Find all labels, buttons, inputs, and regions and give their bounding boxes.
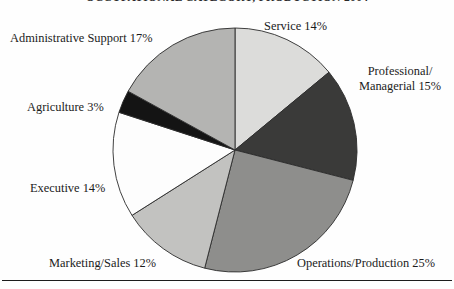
pie-label-marketing-sales: Marketing/Sales 12% [49, 256, 156, 271]
pie-label-operations-production: Operations/Production 25% [297, 256, 435, 271]
pie-label-administrative-support: Administrative Support 17% [10, 31, 152, 46]
pie-slice-group [113, 28, 357, 272]
bottom-divider-rule [2, 280, 452, 281]
pie-label-service: Service 14% [264, 19, 327, 34]
pie-label-professional-managerial: Professional/ Managerial 15% [352, 64, 448, 93]
pie-chart-figure: OCCUPATIONAL CATEGORY, PRODUCTION 2004 S… [0, 0, 454, 289]
pie-label-professional-line1: Professional/ [352, 64, 448, 79]
pie-label-executive: Executive 14% [30, 181, 105, 196]
pie-label-agriculture: Agriculture 3% [27, 100, 104, 115]
pie-label-professional-line2: Managerial 15% [352, 79, 448, 94]
